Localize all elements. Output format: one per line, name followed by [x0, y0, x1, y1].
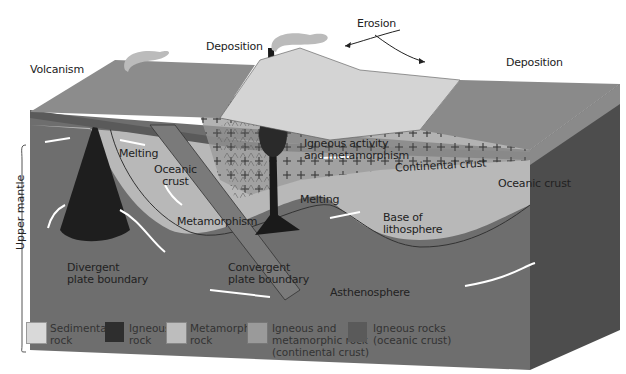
- label-igneous-activity: Igneous activity and metamorphism: [304, 138, 409, 162]
- label-metamorphism: Metamorphism: [177, 216, 257, 228]
- legend-swatch-sedimentary: [26, 322, 47, 344]
- label-convergent-boundary: Convergent plate boundary: [228, 262, 309, 286]
- label-melting-center: Melting: [300, 194, 339, 206]
- legend-swatch-continental: [247, 322, 268, 344]
- legend-swatch-metamorphic: [166, 322, 187, 344]
- label-divergent-boundary: Divergent plate boundary: [67, 262, 148, 286]
- label-volcanism: Volcanism: [30, 64, 84, 76]
- legend-label-igneous: Igneous rock: [129, 322, 170, 346]
- legend-label-oceanic: Igneous rocks (oceanic crust): [373, 322, 451, 346]
- legend-swatch-oceanic: [348, 322, 367, 342]
- label-upper-mantle: Upper mantle: [14, 175, 27, 250]
- label-asthenosphere: Asthenosphere: [330, 287, 410, 299]
- legend-swatch-igneous: [105, 322, 124, 342]
- label-deposition-right: Deposition: [506, 57, 563, 69]
- label-oceanic-crust-right: Oceanic crust: [498, 178, 571, 190]
- label-deposition-left: Deposition: [206, 41, 263, 53]
- label-erosion: Erosion: [357, 18, 396, 30]
- label-melting-left: Melting: [119, 148, 158, 160]
- label-base-of-lithosphere: Base of lithosphere: [383, 212, 442, 236]
- label-oceanic-crust-left: Oceanic crust: [154, 164, 197, 188]
